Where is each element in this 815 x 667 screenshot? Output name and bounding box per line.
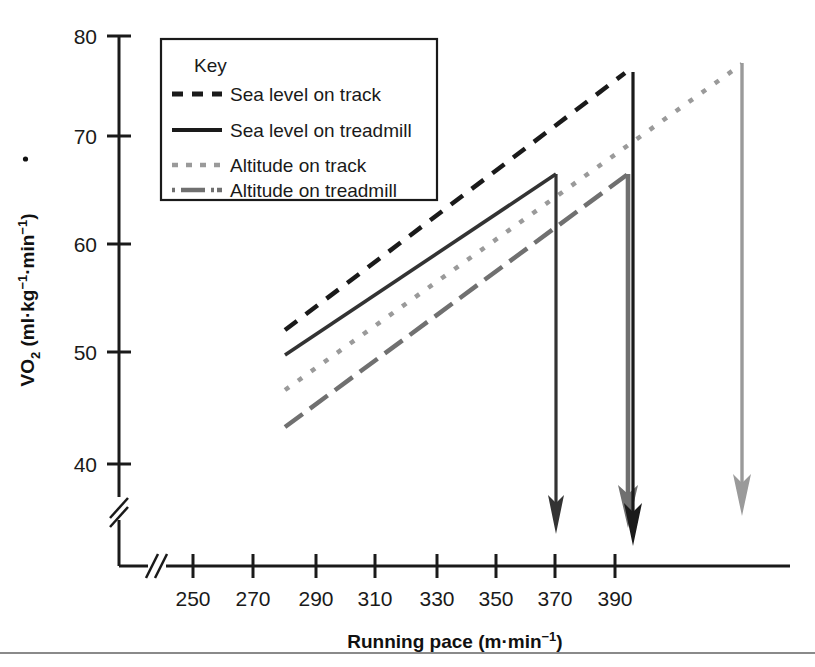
x-tick-label-290: 290 (298, 587, 333, 610)
y-axis-title-rest: (ml·kg (17, 290, 38, 352)
annotation-arrow-sea-level-treadmill (548, 174, 564, 534)
y-axis-title-close: ) (17, 213, 38, 219)
figure-bottom-rule (0, 652, 815, 654)
y-axis-title-sub: 2 (28, 352, 43, 359)
x-tick-label-330: 330 (419, 587, 454, 610)
y-axis-title-mid: ·min (17, 235, 38, 275)
legend: Key Sea level on track Sea level on trea… (161, 39, 437, 201)
legend-label-altitude-on-track: Altitude on track (230, 155, 367, 176)
y-tick-label-40: 40 (74, 453, 97, 476)
legend-label-altitude-on-treadmill: Altitude on treadmill (230, 180, 397, 201)
legend-label-sea-level-on-treadmill: Sea level on treadmill (230, 120, 412, 141)
annotation-arrow-altitude-treadmill (618, 174, 638, 528)
y-axis-title: VO2 (ml·kg−1·min−1) (15, 213, 43, 386)
x-tick-label-370: 370 (537, 587, 572, 610)
y-axis-title-group: VO2 (ml·kg−1·min−1) (15, 156, 43, 386)
x-tick-label-390: 390 (597, 587, 632, 610)
v-dot-overdot-icon (23, 156, 28, 161)
y-axis-title-sup2: −1 (15, 220, 30, 235)
chart-canvas: 80 70 60 50 40 250 270 290 310 330 350 3… (0, 0, 815, 667)
x-axis-title-mid: ·min (501, 631, 541, 652)
x-tick-label-270: 270 (235, 587, 270, 610)
series-line-altitude-on-treadmill (285, 174, 628, 427)
x-tick-label-310: 310 (357, 587, 392, 610)
y-tick-label-80: 80 (74, 25, 97, 48)
y-tick-label-70: 70 (74, 125, 97, 148)
x-axis-title-sup: −1 (542, 629, 557, 644)
x-tick-label-350: 350 (478, 587, 513, 610)
x-axis-title-close: ) (556, 631, 562, 652)
x-tick-label-250: 250 (175, 587, 210, 610)
y-tick-label-60: 60 (74, 233, 97, 256)
legend-title: Key (194, 55, 227, 76)
y-axis-title-o: O (17, 359, 38, 374)
y-axis-title-sup1: −1 (15, 275, 30, 290)
figure-container: 80 70 60 50 40 250 270 290 310 330 350 3… (0, 0, 815, 667)
annotation-arrow-altitude-track (733, 63, 751, 516)
x-axis (119, 554, 790, 578)
x-axis-title-main: Running pace (m (347, 631, 501, 652)
y-axis (107, 36, 131, 566)
y-axis-title-v: V (17, 374, 38, 387)
legend-label-sea-level-on-track: Sea level on track (230, 84, 382, 105)
y-tick-label-50: 50 (74, 341, 97, 364)
x-axis-title: Running pace (m·min−1) (347, 629, 562, 652)
